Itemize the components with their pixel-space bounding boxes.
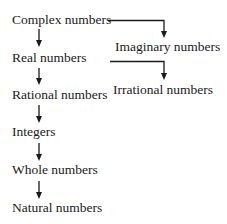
arrow-real-to-irrational [110, 62, 167, 81]
node-complex-numbers: Complex numbers [12, 13, 111, 27]
node-irrational-numbers: Irrational numbers [113, 83, 213, 97]
node-natural-numbers: Natural numbers [12, 201, 102, 215]
node-whole-numbers: Whole numbers [12, 163, 98, 177]
arrow-rational-to-integers [36, 105, 42, 123]
connector-lines [0, 0, 227, 224]
node-rational-numbers: Rational numbers [12, 88, 108, 102]
node-real-numbers: Real numbers [12, 51, 87, 65]
arrow-real-to-rational [36, 68, 42, 85]
node-integers: Integers [12, 125, 55, 139]
arrow-whole-to-natural [36, 181, 42, 199]
arrow-complex-to-real [36, 29, 42, 47]
node-imaginary-numbers: Imaginary numbers [115, 40, 220, 54]
arrow-complex-to-imaginary [108, 21, 167, 39]
arrow-integers-to-whole [36, 143, 42, 161]
